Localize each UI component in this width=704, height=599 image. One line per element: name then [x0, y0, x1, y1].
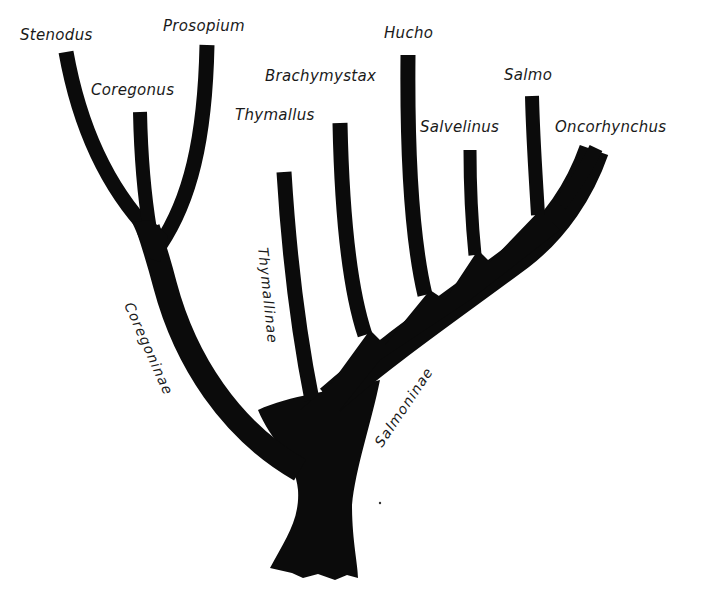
branch-hucho	[408, 55, 425, 295]
label-coregonus: Coregonus	[91, 81, 174, 99]
branch-brachymystax	[340, 123, 365, 335]
label-thymallinae: Thymallinae	[255, 247, 281, 345]
branch-salmo	[532, 96, 538, 215]
label-thymallus: Thymallus	[235, 106, 315, 124]
label-prosopium: Prosopium	[163, 17, 245, 35]
branch-prosopium	[160, 45, 207, 245]
label-salvelinus: Salvelinus	[420, 118, 499, 136]
phylogenetic-tree: Stenodus Coregonus Prosopium Thymallus B…	[0, 0, 704, 599]
branch-thymallus	[284, 172, 312, 400]
branch-coregonus	[140, 112, 150, 230]
label-stenodus: Stenodus	[20, 26, 93, 44]
label-brachymystax: Brachymystax	[265, 67, 376, 85]
label-hucho: Hucho	[384, 24, 433, 42]
branch-salvelinus	[470, 150, 475, 255]
scan-speck	[379, 502, 381, 504]
label-oncorhynchus: Oncorhynchus	[555, 118, 666, 136]
label-salmo: Salmo	[504, 66, 552, 84]
